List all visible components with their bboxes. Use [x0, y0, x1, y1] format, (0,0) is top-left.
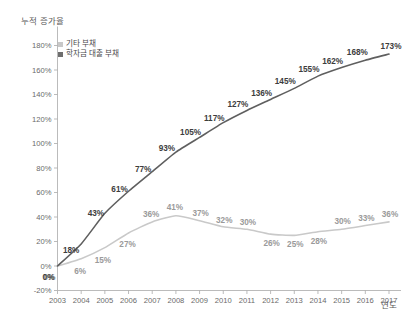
data-label-student-loan-debt: 61% [111, 185, 128, 194]
y-tick-label: 140% [32, 90, 52, 99]
x-tick-label: 2007 [144, 296, 161, 305]
data-label-other-debt: 37% [192, 209, 209, 218]
data-label-student-loan-debt: 77% [135, 165, 152, 174]
x-tick-label: 2014 [310, 296, 327, 305]
data-label-other-debt: 32% [216, 216, 233, 225]
data-label-student-loan-debt: 145% [275, 77, 297, 86]
x-tick-label: 2013 [286, 296, 303, 305]
data-label-student-loan-debt: 136% [251, 89, 273, 98]
x-tick-label: 2015 [333, 296, 350, 305]
data-label-other-debt: 15% [95, 256, 112, 265]
x-tick-label: 2009 [191, 296, 208, 305]
y-tick-label: 120% [32, 115, 52, 124]
x-tick-label: 2005 [96, 296, 113, 305]
plot-area: -20%0%20%40%60%80%100%120%140%160%180%20… [0, 0, 414, 322]
data-label-student-loan-debt: 43% [88, 209, 105, 218]
data-label-other-debt: 28% [311, 237, 328, 246]
data-label-other-debt: 27% [119, 240, 136, 249]
data-label-other-debt: 36% [143, 210, 160, 219]
y-tick-label: 180% [32, 41, 52, 50]
data-label-other-debt: 41% [167, 203, 184, 212]
x-axis-title: 연도 [381, 298, 397, 310]
x-tick-label: 2006 [120, 296, 137, 305]
x-tick-label: 2016 [357, 296, 374, 305]
data-label-student-loan-debt: 155% [298, 65, 320, 74]
x-tick-label: 2008 [167, 296, 184, 305]
line-chart: 누적 증가율 기타 부채 학자금 대출 부채 -20%0%20%40%60%80… [0, 0, 414, 322]
data-label-student-loan-debt: 93% [159, 144, 176, 153]
data-label-student-loan-debt: 162% [322, 57, 344, 66]
y-tick-label: 60% [36, 188, 51, 197]
data-label-other-debt: 25% [287, 240, 304, 249]
data-label-other-debt: 36% [382, 210, 399, 219]
y-tick-label: 40% [36, 213, 51, 222]
data-label-student-loan-debt: 105% [180, 128, 202, 137]
data-label-student-loan-debt: 127% [227, 100, 249, 109]
data-label-other-debt: 6% [74, 267, 87, 276]
data-label-other-debt: 30% [334, 217, 351, 226]
y-tick-label: 80% [36, 164, 51, 173]
data-label-other-debt: 26% [263, 239, 280, 248]
x-tick-label: 2010 [215, 296, 232, 305]
series-line-student-loan-debt [58, 54, 390, 266]
y-tick-label: 20% [36, 237, 51, 246]
y-tick-label: 0% [41, 262, 52, 271]
data-label-student-loan-debt: 0% [43, 273, 56, 282]
x-tick-label: 2012 [262, 296, 279, 305]
data-label-student-loan-debt: 117% [204, 114, 225, 123]
y-tick-label: 100% [32, 139, 52, 148]
x-tick-label: 2004 [73, 296, 90, 305]
data-label-student-loan-debt: 18% [63, 246, 80, 255]
x-tick-label: 2011 [239, 296, 255, 305]
x-tick-label: 2003 [49, 296, 66, 305]
data-label-other-debt: 33% [358, 214, 375, 223]
data-label-student-loan-debt: 173% [381, 42, 403, 51]
y-tick-label: -20% [34, 286, 52, 295]
data-label-other-debt: 30% [240, 218, 257, 227]
y-tick-label: 160% [32, 66, 52, 75]
data-label-student-loan-debt: 168% [347, 48, 369, 57]
